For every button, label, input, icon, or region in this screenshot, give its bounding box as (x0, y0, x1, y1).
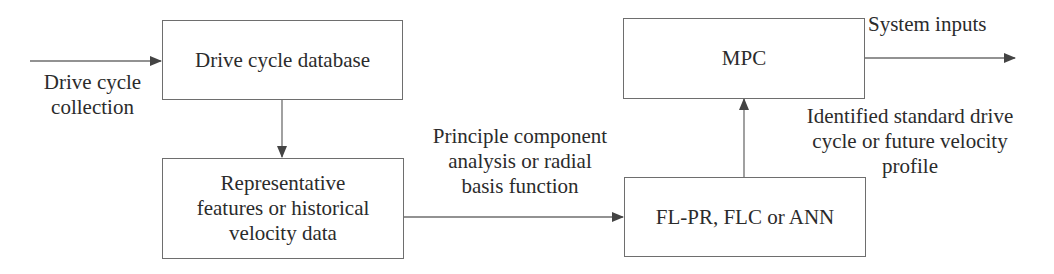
edge-label-input: Drive cycle collection (30, 70, 155, 120)
node-label: Drive cycle database (195, 48, 370, 73)
edge-label-features-to-predictor: Principle component analysis or radial b… (420, 124, 620, 199)
node-label: Representative features or historical ve… (197, 171, 370, 246)
node-representative-features: Representative features or historical ve… (162, 158, 404, 259)
node-drive-cycle-database: Drive cycle database (162, 20, 403, 100)
node-mpc: MPC (623, 18, 865, 99)
edge-label-predictor-to-mpc: Identified standard drive cycle or futur… (780, 104, 1040, 179)
node-predictor: FL-PR, FLC or ANN (624, 177, 866, 257)
node-label: FL-PR, FLC or ANN (656, 205, 835, 230)
node-label: MPC (722, 46, 766, 71)
edge-label-output: System inputs (868, 12, 1018, 37)
